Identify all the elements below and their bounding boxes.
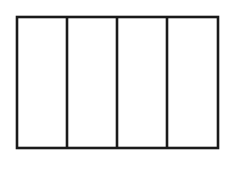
diagram-part-3	[118, 17, 168, 148]
diagram-root	[17, 17, 218, 148]
diagram-part-4	[168, 17, 218, 148]
partitioned-rectangle-diagram	[0, 0, 225, 172]
diagram-part-1	[17, 17, 67, 148]
diagram-part-2	[67, 17, 117, 148]
